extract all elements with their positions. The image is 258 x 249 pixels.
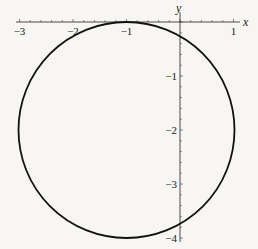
y-tick-label: −1	[165, 70, 177, 82]
y-tick-label: −4	[165, 232, 177, 244]
x-tick-label: 1	[231, 25, 237, 37]
x-tick-label: −3	[14, 25, 26, 37]
y-tick-label: −3	[165, 178, 177, 190]
y-tick-labels: −1−2−3−4	[165, 70, 177, 244]
chart: x y −3−2−11 −1−2−3−4	[0, 0, 258, 249]
y-minor-ticks	[180, 22, 183, 238]
x-tick-labels: −3−2−11	[14, 25, 237, 37]
circle-curve	[19, 22, 235, 238]
x-tick-label: −1	[121, 25, 133, 37]
y-tick-label: −2	[165, 124, 177, 136]
y-axis-label: y	[175, 1, 182, 15]
x-axis-label: x	[242, 15, 249, 29]
